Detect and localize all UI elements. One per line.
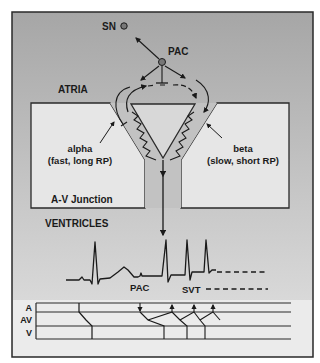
- ladder-background: [13, 300, 312, 356]
- sn-label: SN: [102, 21, 116, 32]
- atria-label: ATRIA: [58, 84, 88, 95]
- beta-label: beta: [233, 143, 253, 154]
- pac-node-icon: [159, 59, 166, 66]
- ecg-pac-label: PAC: [130, 282, 149, 293]
- ladder-row-v: V: [26, 328, 32, 338]
- sn-node-icon: [121, 23, 127, 29]
- ladder-row-av: AV: [20, 315, 32, 325]
- av-junction-label: A-V Junction: [51, 194, 113, 205]
- alpha-property-label: (fast, long RP): [48, 155, 112, 166]
- ladder-row-a: A: [26, 303, 33, 313]
- pac-top-label: PAC: [168, 46, 188, 57]
- alpha-label: alpha: [68, 143, 94, 154]
- beta-property-label: (slow, short RP): [207, 155, 279, 166]
- ventricles-label: VENTRICLES: [45, 218, 109, 229]
- svt-label: SVT: [182, 284, 201, 295]
- avnrt-diagram: SN PAC ATRIA alpha (fast, long RP) beta …: [0, 0, 320, 363]
